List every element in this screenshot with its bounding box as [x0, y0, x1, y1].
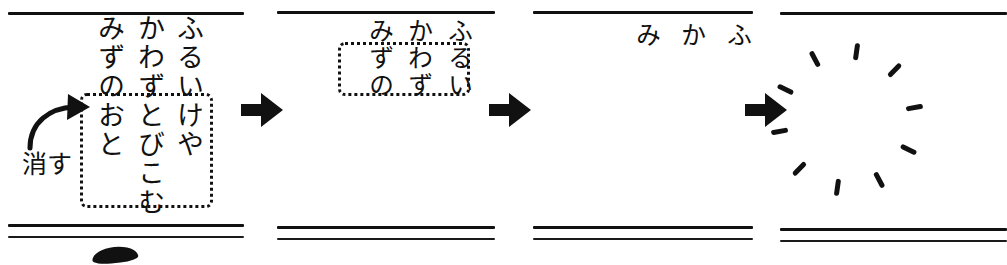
burst-spark [906, 104, 924, 112]
panel-2-selection-box[interactable] [338, 42, 470, 96]
burst-spark [771, 127, 789, 135]
burst-spark [900, 144, 917, 156]
arrow-shaft [489, 104, 511, 116]
panel-3-column-1: ふ [724, 22, 750, 49]
burst-spark [809, 50, 821, 67]
burst-spark [873, 171, 885, 188]
burst-spark [887, 62, 902, 78]
panel-1-bottom-rule-upper [8, 224, 244, 227]
panel-4-bottom-rule-lower [780, 240, 1007, 242]
erase-label: 消す [22, 152, 72, 177]
panel-2-top-rule [277, 11, 495, 14]
transition-arrow-2 [489, 93, 533, 127]
bottom-edge-smudge [91, 245, 138, 265]
arrow-head [509, 93, 531, 127]
panel-3-column-2: か [679, 22, 705, 49]
panel-4-bottom-rule-upper [780, 228, 1007, 231]
transition-arrow-3 [745, 93, 789, 127]
panel-3-bottom-rule-upper [533, 226, 753, 229]
transition-arrow-1 [241, 93, 285, 127]
arrow-head [261, 93, 283, 127]
panel-3-bottom-rule-lower [533, 238, 753, 240]
burst-spark [792, 161, 807, 177]
panel-2-bottom-rule-lower [277, 238, 495, 240]
panel-3-haiku-text: ふ か み [613, 22, 750, 49]
sparkle-burst-icon [822, 62, 932, 172]
arrow-head [765, 93, 787, 127]
arrow-shaft [745, 104, 767, 116]
panel-2-bottom-rule-upper [277, 226, 495, 229]
panel-4-top-rule [780, 12, 1007, 15]
panel-3-column-3: み [633, 22, 659, 49]
panel-1-bottom-rule-lower [8, 236, 244, 238]
burst-spark [853, 43, 860, 61]
arrow-shaft [241, 104, 263, 116]
burst-spark [834, 179, 841, 197]
panel-3-top-rule [533, 11, 753, 14]
erase-curved-arrow-icon [20, 92, 100, 152]
